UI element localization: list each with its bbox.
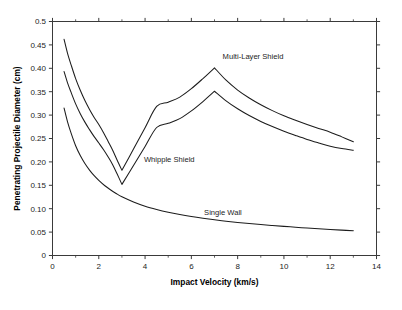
y-tick-labels-group: 00.050.100.150.200.250.300.350.400.450.5 [30, 17, 46, 260]
y-tick-label: 0.10 [30, 205, 46, 214]
y-tick-label: 0.20 [30, 158, 46, 167]
y-tick-label: 0.05 [30, 228, 46, 237]
x-tick-labels-group: 02468101214 [50, 262, 381, 271]
y-tick-label: 0.25 [30, 134, 46, 143]
x-tick-label: 12 [326, 262, 335, 271]
series-annotations-group: Multi-Layer ShieldWhipple ShieldSingle W… [144, 52, 283, 217]
series-line-multi-layer-shield [64, 39, 353, 170]
x-tick-label: 6 [189, 262, 194, 271]
x-tick-label: 4 [143, 262, 148, 271]
x-tick-label: 10 [279, 262, 288, 271]
y-tick-label: 0.15 [30, 181, 46, 190]
data-series-group [64, 39, 353, 231]
series-line-whipple-shield [64, 72, 353, 185]
x-axis-title: Impact Velocity (km/s) [171, 277, 259, 287]
x-tick-label: 2 [97, 262, 102, 271]
y-axis-title: Penetrating Projectile Diameter (cm) [12, 66, 22, 210]
series-label-whipple-shield: Whipple Shield [144, 155, 195, 164]
y-tick-label: 0.30 [30, 111, 46, 120]
y-tick-label: 0.45 [30, 41, 46, 50]
line-chart: 00.050.100.150.200.250.300.350.400.450.5… [0, 0, 402, 310]
y-tick-label: 0 [42, 251, 47, 260]
y-tick-label: 0.40 [30, 64, 46, 73]
axes-group [53, 22, 377, 256]
tick-marks-group [49, 18, 380, 259]
x-tick-label: 0 [50, 262, 55, 271]
chart-figure: 00.050.100.150.200.250.300.350.400.450.5… [0, 0, 402, 310]
y-tick-label: 0.5 [35, 17, 47, 26]
x-tick-label: 14 [372, 262, 381, 271]
series-label-multi-layer-shield: Multi-Layer Shield [223, 52, 284, 61]
series-label-single-wall: Single Wall [204, 208, 242, 217]
y-tick-label: 0.35 [30, 88, 46, 97]
x-tick-label: 8 [235, 262, 240, 271]
